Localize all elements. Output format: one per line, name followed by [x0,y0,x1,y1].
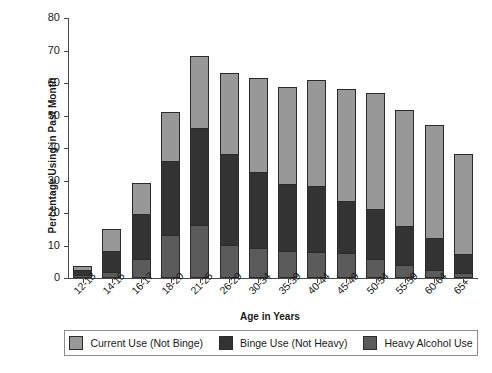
bar-segment-current-use [278,87,297,186]
bar-segment-binge-use [366,209,385,260]
bar-column [366,18,385,278]
bar-column [249,18,268,278]
legend-label: Heavy Alcohol Use [384,337,472,349]
bar-segment-binge-use [132,214,151,260]
bar-segment-current-use [132,183,151,216]
y-tick-label: 70 [32,45,60,56]
bar-column [102,18,121,278]
y-tick-mark [64,278,68,279]
legend-swatch [69,336,83,350]
y-tick-label: 50 [32,110,60,121]
bar-column [220,18,239,278]
y-tick-label: 20 [32,207,60,218]
legend-swatch [363,336,377,350]
bar-segment-binge-use [190,128,209,226]
bar-column [395,18,414,278]
bar-segment-binge-use [425,238,444,271]
bar-segment-current-use [425,125,444,239]
legend-label: Binge Use (Not Heavy) [240,337,347,349]
bar-segment-current-use [161,112,180,161]
bar-segment-current-use [395,110,414,227]
bar-segment-current-use [102,229,121,252]
legend-entry: Heavy Alcohol Use [363,336,472,350]
bar-segment-binge-use [278,184,297,252]
bar-segment-current-use [366,93,385,210]
y-tick-label: 0 [32,272,60,283]
y-tick-label: 40 [32,142,60,153]
bar-segment-binge-use [161,161,180,236]
bar-column [425,18,444,278]
x-axis-title: Age in Years [240,311,300,322]
bar-segment-current-use [190,56,209,129]
bar-segment-current-use [220,73,239,155]
y-tick-label: 80 [32,12,60,23]
y-tick-label: 30 [32,175,60,186]
y-tick-label: 10 [32,240,60,251]
bar-segment-current-use [249,78,268,174]
bar-column [278,18,297,278]
bar-column [190,18,209,278]
bar-segment-binge-use [337,201,356,254]
bar-segment-binge-use [454,254,473,274]
bar-segment-current-use [454,154,473,255]
bar-column [454,18,473,278]
legend-entry: Binge Use (Not Heavy) [219,336,347,350]
bar-column [307,18,326,278]
bar-segment-binge-use [249,172,268,249]
bar-segment-current-use [337,89,356,202]
legend-entry: Current Use (Not Binge) [69,336,203,350]
bar-column [161,18,180,278]
legend-label: Current Use (Not Binge) [90,337,203,349]
chart-figure: Percentage Using in Past Month 010203040… [0,0,492,373]
chart-legend: Current Use (Not Binge)Binge Use (Not He… [64,330,478,356]
bar-column [132,18,151,278]
bar-column [73,18,92,278]
y-tick-label: 60 [32,77,60,88]
bar-column [337,18,356,278]
plot-area [68,18,478,278]
bar-segment-binge-use [307,186,326,253]
legend-swatch [219,336,233,350]
bar-segment-binge-use [220,154,239,246]
bar-segment-current-use [307,80,326,187]
bar-segment-binge-use [395,226,414,267]
